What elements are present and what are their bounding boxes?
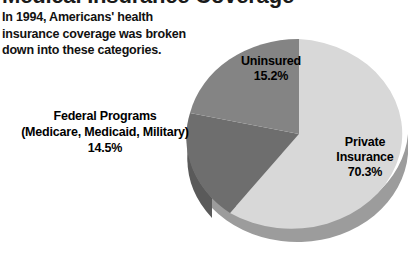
pie-label-federal-value: 14.5%	[0, 140, 210, 156]
pie-label-federal-name-line2: (Medicare, Medicaid, Military)	[0, 124, 210, 140]
pie-label-federal-programs: Federal Programs (Medicare, Medicaid, Mi…	[0, 108, 210, 156]
intro-paragraph: In 1994, Americans' health insurance cov…	[2, 9, 207, 59]
pie-label-uninsured: Uninsured 15.2%	[222, 54, 320, 84]
pie-label-private-name-line1: Private	[322, 135, 408, 150]
pie-label-uninsured-value: 15.2%	[222, 69, 320, 84]
pie-label-private-value: 70.3%	[322, 165, 408, 180]
pie-label-private-insurance: Private Insurance 70.3%	[322, 135, 408, 180]
chart-page: Medical Insurance Coverage In 1994, Amer…	[0, 0, 419, 265]
page-title: Medical Insurance Coverage	[2, 0, 294, 9]
pie-label-federal-name-line1: Federal Programs	[0, 108, 210, 124]
pie-label-private-name-line2: Insurance	[322, 150, 408, 165]
pie-label-uninsured-name: Uninsured	[222, 54, 320, 69]
